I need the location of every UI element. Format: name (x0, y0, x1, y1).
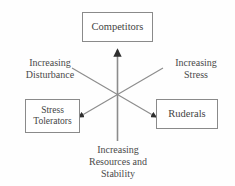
axis-label-disturbance: Increasing Disturbance (14, 57, 86, 81)
csr-strategy-diagram: Competitors Stress Tolerators Ruderals I… (0, 0, 235, 186)
node-stress-tolerators-label-line2: Tolerators (33, 116, 71, 127)
node-ruderals-label: Ruderals (168, 108, 205, 120)
axis-label-disturbance-line2: Disturbance (14, 69, 86, 81)
axis-label-stress-line1: Increasing (163, 57, 229, 69)
axis-label-resources-line3: Stability (63, 168, 173, 180)
node-ruderals: Ruderals (156, 99, 218, 129)
axis-label-resources-line2: Resources and (63, 156, 173, 168)
axis-label-resources-line1: Increasing (63, 144, 173, 156)
axis-label-stress: Increasing Stress (163, 57, 229, 81)
axis-label-disturbance-line1: Increasing (14, 57, 86, 69)
axis-label-stress-line2: Stress (163, 69, 229, 81)
arrow-stress-to-stress-tolerators (79, 68, 163, 117)
node-stress-tolerators: Stress Tolerators (25, 99, 80, 133)
node-competitors: Competitors (82, 12, 153, 42)
node-competitors-label: Competitors (92, 21, 144, 33)
axis-label-resources: Increasing Resources and Stability (63, 144, 173, 179)
node-stress-tolerators-label-line1: Stress (33, 105, 71, 116)
